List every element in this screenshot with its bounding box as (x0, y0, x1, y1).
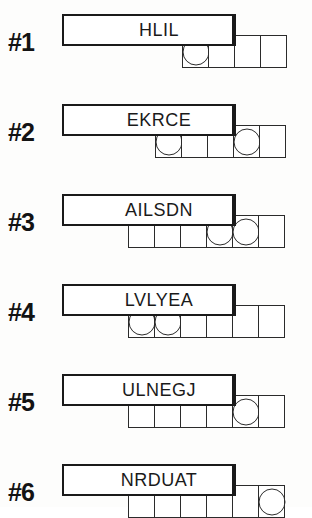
answer-cell-circled[interactable] (232, 395, 259, 428)
answer-cell[interactable] (232, 485, 259, 518)
row-number-label: #1 (8, 30, 58, 55)
scrambled-word-text: HLIL (139, 20, 179, 41)
answer-cell-circled[interactable] (232, 215, 259, 248)
scrambled-word-text: NRDUAT (121, 470, 198, 491)
scrambled-word-text: AILSDN (125, 200, 193, 221)
row-number-label: #3 (8, 210, 58, 235)
answer-cell-circled[interactable] (233, 125, 260, 158)
scrambled-word-text: ULNEGJ (122, 380, 196, 401)
scrambled-word-text: LVLYEA (125, 290, 193, 311)
scrambled-word-box: HLIL (62, 14, 236, 46)
answer-cell[interactable] (258, 215, 285, 248)
scrambled-word-box: EKRCE (62, 104, 236, 136)
answer-cell[interactable] (258, 395, 285, 428)
scrambled-word-box: LVLYEA (62, 284, 236, 316)
row-number-label: #5 (8, 390, 58, 415)
row-number-label: #4 (8, 300, 58, 325)
answer-cell[interactable] (259, 125, 286, 158)
scrambled-word-box: NRDUAT (62, 464, 236, 496)
row-number-label: #2 (8, 120, 58, 145)
answer-cell-circled[interactable] (258, 485, 285, 518)
row-number-label: #6 (8, 480, 58, 505)
scrambled-word-box: AILSDN (62, 194, 236, 226)
answer-cell[interactable] (258, 305, 285, 338)
answer-cell[interactable] (232, 305, 259, 338)
answer-cell[interactable] (234, 35, 261, 68)
scrambled-word-text: EKRCE (127, 110, 192, 131)
answer-cell[interactable] (260, 35, 287, 68)
scrambled-word-box: ULNEGJ (62, 374, 236, 406)
